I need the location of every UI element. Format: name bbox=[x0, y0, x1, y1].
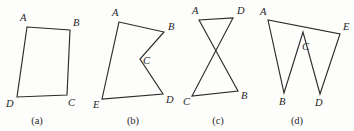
vertex-label-d-e: E bbox=[342, 21, 350, 32]
figures-group: ABCD(a)ABCDE(b)ADBC(c)ABCDE(d) bbox=[5, 5, 350, 127]
vertex-label-b-a: A bbox=[111, 7, 119, 18]
figures-canvas: ABCD(a)ABCDE(b)ADBC(c)ABCDE(d) bbox=[0, 0, 354, 131]
figure-c: ADBC(c) bbox=[183, 5, 248, 127]
vertex-label-d-a: A bbox=[259, 6, 267, 17]
vertex-label-c-c: C bbox=[183, 96, 191, 107]
figure-b: ABCDE(b) bbox=[92, 7, 175, 127]
vertex-label-a-d: D bbox=[5, 98, 14, 109]
polygon-outline-d bbox=[268, 20, 340, 94]
figure-sheet: ABCD(a)ABCDE(b)ADBC(c)ABCDE(d) bbox=[0, 0, 354, 131]
vertex-label-c-a: A bbox=[191, 5, 199, 16]
vertex-label-d-d: D bbox=[314, 97, 323, 108]
polygon-outline-c bbox=[192, 18, 238, 96]
vertex-label-c-b: B bbox=[241, 90, 248, 101]
figure-caption-d: (d) bbox=[291, 115, 304, 127]
figure-a: ABCD(a) bbox=[5, 12, 80, 127]
vertex-label-b-e: E bbox=[92, 99, 100, 110]
vertex-label-b-c: C bbox=[143, 55, 151, 66]
figure-caption-c: (c) bbox=[212, 115, 224, 127]
figure-caption-b: (b) bbox=[127, 115, 140, 127]
vertex-label-a-c: C bbox=[68, 97, 76, 108]
figure-caption-a: (a) bbox=[31, 115, 43, 127]
vertex-label-b-d: D bbox=[165, 94, 174, 105]
vertex-label-d-b: B bbox=[279, 96, 286, 107]
vertex-label-c-d: D bbox=[236, 5, 245, 16]
vertex-label-a-b: B bbox=[73, 17, 80, 28]
polygon-outline-b bbox=[102, 22, 164, 99]
vertex-label-a-a: A bbox=[19, 12, 27, 23]
vertex-label-d-c: C bbox=[302, 41, 310, 52]
figure-d: ABCDE(d) bbox=[259, 6, 350, 127]
vertex-label-b-b: B bbox=[168, 21, 175, 32]
polygon-outline-a bbox=[17, 27, 70, 97]
